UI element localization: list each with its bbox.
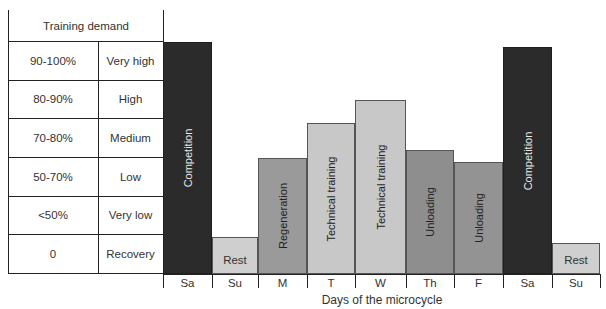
x-tick-label: Su: [212, 277, 258, 289]
x-tick-label: T: [307, 277, 355, 289]
range-cell: 50-70%: [8, 157, 98, 196]
x-tick: [600, 274, 601, 288]
x-tick-label: Sa: [163, 277, 212, 289]
x-tick-label: W: [355, 277, 406, 289]
table-bottom-border: [8, 273, 164, 274]
range-cell: 70-80%: [8, 118, 98, 157]
level-cell: Recovery: [98, 234, 163, 273]
bar-label: Rest: [213, 254, 257, 266]
bar-m-regeneration: Regeneration: [258, 158, 307, 274]
bar-label: Competition: [522, 131, 534, 190]
x-tick-label: M: [258, 277, 307, 289]
bar-label: Technical training: [375, 145, 387, 230]
x-tick-label: F: [454, 277, 503, 289]
bar-label: Technical training: [325, 156, 337, 241]
level-cell: Very high: [98, 41, 163, 80]
bar-label: Unloading: [424, 187, 436, 237]
bar-su-rest: Rest: [552, 243, 600, 274]
range-cell: 80-90%: [8, 80, 98, 118]
level-cell: Low: [98, 157, 163, 196]
level-cell: Medium: [98, 118, 163, 157]
bar-th-unloading: Unloading: [406, 150, 454, 274]
range-cell: 90-100%: [8, 41, 98, 80]
level-cell: High: [98, 80, 163, 118]
bar-label: Regeneration: [277, 183, 289, 249]
bar-label: Rest: [553, 254, 599, 266]
bar-sa-competition: Competition: [163, 42, 212, 274]
table-header: Training demand: [8, 10, 164, 41]
x-tick-label: Su: [552, 277, 600, 289]
range-cell: 0: [8, 234, 98, 273]
bar-su-rest: Rest: [212, 237, 258, 274]
bar-f-unloading: Unloading: [454, 162, 503, 274]
x-tick-label: Sa: [503, 277, 552, 289]
level-cell: Very low: [98, 196, 163, 234]
bar-label: Competition: [182, 129, 194, 188]
bar-label: Unloading: [473, 193, 485, 243]
bar-t-technical-training: Technical training: [307, 123, 355, 274]
bar-sa-competition: Competition: [503, 47, 552, 274]
bar-w-technical-training: Technical training: [355, 100, 406, 274]
x-axis-line: [163, 274, 601, 275]
x-axis-title: Days of the microcycle: [163, 293, 601, 307]
x-tick-label: Th: [406, 277, 454, 289]
range-cell: <50%: [8, 196, 98, 234]
